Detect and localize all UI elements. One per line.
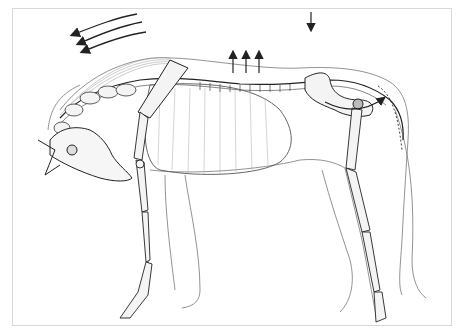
front-leg [120,112,152,318]
pelvis [305,73,373,116]
neck-arrow-icon-1 [72,14,137,35]
skull [38,128,132,181]
cervical-vertebrae [54,84,136,134]
rib-cage [145,84,291,175]
neck-arrows [72,14,146,52]
back-arrows-up [233,52,259,73]
horse-skeleton-illustration [0,0,459,332]
scapula [138,60,188,118]
tail-vertebrae [378,86,402,150]
hind-leg [346,108,386,322]
neck-arrow-icon-3 [82,32,146,52]
